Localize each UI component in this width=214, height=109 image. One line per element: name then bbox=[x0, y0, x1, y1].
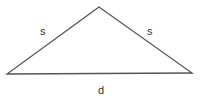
left-side-label: s bbox=[40, 26, 46, 37]
right-side-label: s bbox=[147, 26, 153, 37]
base-label: d bbox=[98, 85, 104, 96]
triangle-diagram: s s d bbox=[0, 0, 214, 109]
triangle-shape bbox=[0, 0, 214, 109]
